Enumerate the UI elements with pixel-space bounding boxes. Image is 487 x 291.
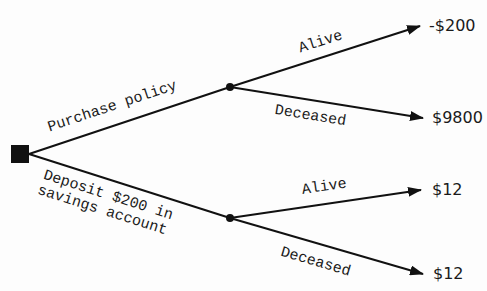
tree-lines: [0, 0, 487, 291]
payoff-purchase-alive: -$200: [429, 17, 476, 35]
decision-node-square: [11, 145, 29, 163]
payoff-deposit-alive: $12: [432, 181, 463, 199]
payoff-purchase-deceased: $9800: [432, 109, 483, 127]
decision-tree-diagram: Purchase policy Deposit $200 in savings …: [0, 0, 487, 291]
payoff-deposit-deceased: $12: [433, 265, 464, 283]
